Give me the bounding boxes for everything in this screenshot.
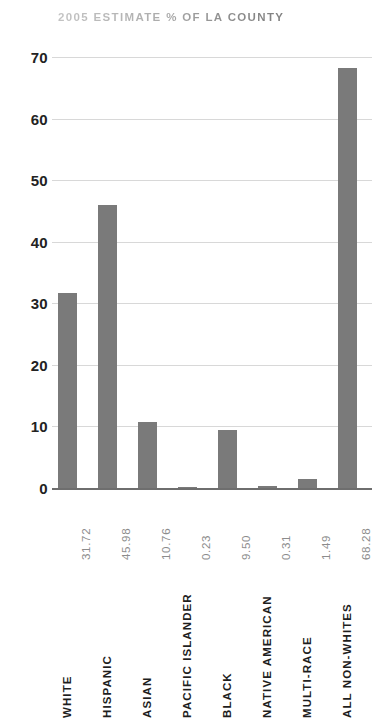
y-axis-tick-label: 70 (2, 50, 48, 65)
bar (298, 479, 317, 488)
gridline-50 (52, 180, 372, 181)
x-axis-category-label: WHITE (58, 568, 77, 718)
gridline-60 (52, 119, 372, 120)
chart-title: 2005 ESTIMATE % OF LA COUNTY (58, 11, 284, 23)
bar (258, 486, 277, 488)
y-axis-tick-label: 50 (2, 173, 48, 188)
y-axis-tick-label: 60 (2, 111, 48, 126)
value-label-group: 31.7245.9810.760.239.500.311.4968.28 (52, 496, 372, 560)
bar-value-label: 68.28 (357, 496, 376, 560)
x-axis-category-label: BLACK (218, 568, 237, 718)
axis-baseline (52, 488, 372, 490)
x-axis-category-label: ALL NON-WHITES (338, 568, 357, 718)
bar-value-label: 10.76 (157, 496, 176, 560)
y-axis-tick-label: 0 (2, 481, 48, 496)
bar-value-label: 1.49 (317, 496, 336, 560)
x-axis-category-label: MULTI-RACE (298, 568, 317, 718)
bar (338, 68, 357, 488)
bar-value-label: 45.98 (117, 496, 136, 560)
x-axis-category-group: WHITEHISPANICASIANPACIFIC ISLANDERBLACKN… (52, 568, 372, 718)
bar (178, 487, 197, 488)
x-axis-category-label: NATIVE AMERICAN (258, 568, 277, 718)
x-axis-category-label: ASIAN (138, 568, 157, 718)
y-axis-tick-label: 30 (2, 296, 48, 311)
bar-value-label: 31.72 (77, 496, 96, 560)
x-axis-category-label: HISPANIC (98, 568, 117, 718)
bar (218, 430, 237, 488)
bar (98, 205, 117, 488)
plot-area (52, 57, 372, 488)
gridline-70 (52, 57, 372, 58)
bar-chart: 2005 ESTIMATE % OF LA COUNTY 70605040302… (0, 0, 390, 722)
bar-value-label: 9.50 (237, 496, 256, 560)
bar-value-label: 0.31 (277, 496, 296, 560)
y-axis-tick-label: 40 (2, 234, 48, 249)
y-axis-tick-label: 10 (2, 419, 48, 434)
y-axis-tick-label: 20 (2, 357, 48, 372)
bar (138, 422, 157, 488)
bar-value-label: 0.23 (197, 496, 216, 560)
bar (58, 293, 77, 488)
x-axis-category-label: PACIFIC ISLANDER (178, 568, 197, 718)
